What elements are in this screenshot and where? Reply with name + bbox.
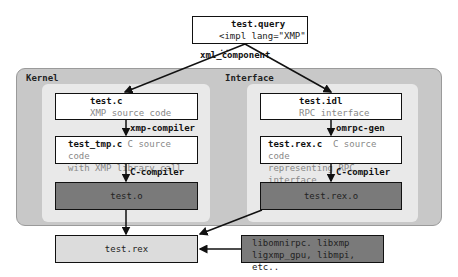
connector-arrows [0, 0, 458, 277]
